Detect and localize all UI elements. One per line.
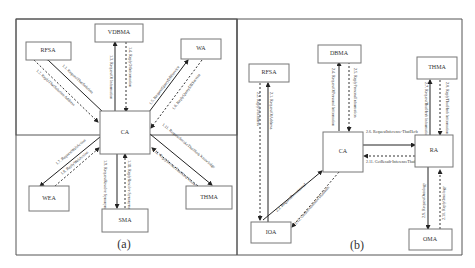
node-vdbma: VDBMA: [95, 24, 143, 42]
edge-label-1-3: 1.3. RequestOf Information: [109, 55, 114, 99]
edge-label-2-10: 2.10. ReplyOntology: [441, 186, 446, 220]
edge-label-1-6: 1.6. ReplyQueryDBService: [171, 72, 202, 110]
edge-label-2-9: 2.9. RequestOntology: [421, 183, 426, 218]
svg-text:IOA: IOA: [266, 229, 277, 235]
svg-text:THMA: THMA: [428, 64, 446, 70]
edge-label-2-3: 2.3. RequestRecommend: [274, 182, 307, 213]
edge-1-8: [55, 148, 99, 186]
edge-label-1-5: 1.5. RequestQueryDBService: [148, 65, 181, 106]
svg-text:CA: CA: [121, 129, 130, 135]
node-rfsa-b: RFSA: [249, 64, 289, 82]
node-sma: SMA: [102, 209, 148, 232]
svg-text:DBMA: DBMA: [330, 50, 349, 56]
edge-label-1-10: 1.10. ReplyResolve Synonyms: [127, 160, 132, 210]
svg-text:RA: RA: [430, 147, 439, 153]
edge-label-1-1: 1.1. RequestThatSolution: [61, 63, 94, 94]
edge-label-2-4: 2.4. RequestOfPersonal Information: [331, 68, 336, 126]
panel-b: 2.2. ReplyOfAddress 2.1. RequestOfAddres…: [237, 19, 462, 255]
node-oma: OMA: [409, 229, 452, 250]
node-wea: WEA: [29, 186, 69, 211]
edge-label-1-4: 1.4. ReplyOfInformation: [128, 47, 133, 87]
edge-label-2-5: 2.5. ReplyPersonalInformation: [353, 68, 358, 117]
edge-label-2-8: 2.8. ReplyThatHerb Information: [445, 82, 450, 134]
node-rfsa: RFSA: [26, 42, 71, 60]
svg-text:VDBMA: VDBMA: [108, 29, 131, 35]
panel-a: 1.1. RequestThatSolution 1.2. ReplyThatS…: [16, 19, 237, 255]
node-ca-b: CA: [323, 132, 363, 172]
edge-1-7: [40, 137, 100, 186]
svg-text:OMA: OMA: [423, 236, 438, 242]
svg-text:SMA: SMA: [118, 217, 132, 223]
node-ca: CA: [100, 111, 150, 154]
svg-text:CA: CA: [339, 148, 348, 154]
edge-label-2-6: 2.6. RequestInference-ThatHerb: [366, 129, 418, 134]
edge-label-2-11: 2.11. GetResult-InferenceThatHerb: [366, 159, 423, 164]
node-thma-b: THMA: [417, 57, 457, 79]
node-ioa: IOA: [251, 222, 291, 243]
agent-interaction-diagram: 1.1. RequestThatSolution 1.2. ReplyThatS…: [0, 0, 475, 268]
svg-text:WEA: WEA: [42, 195, 56, 201]
edge-label-2-2: 2.2. ReplyOfAddress: [256, 92, 261, 126]
node-ra: RA: [415, 135, 453, 167]
svg-text:RFSA: RFSA: [40, 47, 56, 53]
edge-label-1-9: 1.9. RequestResolve Synonyms: [103, 160, 108, 211]
node-dbma: DBMA: [318, 45, 361, 63]
panel-a-caption: (a): [117, 237, 130, 251]
svg-text:RFSA: RFSA: [261, 69, 277, 75]
node-thma: THMA: [186, 186, 232, 209]
edge-label-2-1: 2.1. RequestOfAddress: [269, 92, 274, 130]
svg-text:THMA: THMA: [200, 194, 218, 200]
node-wa: WA: [181, 39, 221, 59]
panel-b-caption: (b): [350, 238, 364, 252]
svg-text:WA: WA: [196, 45, 206, 51]
edge-label-2-7: 2.7. RequestThatHerb Information: [424, 82, 429, 137]
